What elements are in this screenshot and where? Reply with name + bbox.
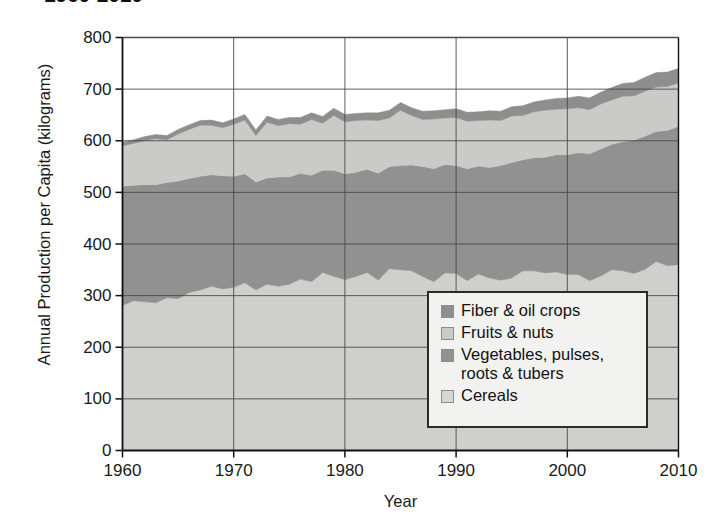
- legend-label: Cereals: [461, 386, 518, 405]
- y-tick-label: 500: [38, 184, 112, 201]
- legend-label: Fruits & nuts: [461, 323, 554, 342]
- legend-item: Fiber & oil crops: [441, 301, 646, 320]
- legend-swatch-vegetables-pulses-roots-tubers: [441, 349, 454, 362]
- legend-item: Cereals: [441, 386, 646, 405]
- x-tick-label: 1970: [189, 462, 279, 479]
- legend-item: Fruits & nuts: [441, 323, 646, 342]
- legend-swatch-fruits-nuts: [441, 327, 454, 340]
- x-tick-label: 1960: [78, 462, 168, 479]
- y-tick-label: 200: [38, 339, 112, 356]
- x-tick-label: 1980: [300, 462, 390, 479]
- legend-item: Vegetables, pulses, roots & tubers: [441, 345, 646, 383]
- y-tick-label: 600: [38, 132, 112, 149]
- legend-swatch-cereals: [441, 390, 454, 403]
- legend-swatch-fiber-oil-crops: [441, 305, 454, 318]
- x-tick-label: 1990: [411, 462, 501, 479]
- y-tick-label: 400: [38, 236, 112, 253]
- y-tick-label: 800: [38, 29, 112, 46]
- legend-label: Fiber & oil crops: [461, 301, 580, 320]
- x-tick-label: 2000: [522, 462, 612, 479]
- y-tick-label: 0: [38, 442, 112, 459]
- x-tick-label: 2010: [634, 462, 716, 479]
- y-tick-label: 100: [38, 390, 112, 407]
- y-tick-label: 300: [38, 287, 112, 304]
- chart-legend: Fiber & oil crops Fruits & nuts Vegetabl…: [427, 291, 648, 428]
- y-tick-label: 700: [38, 81, 112, 98]
- legend-label: Vegetables, pulses, roots & tubers: [461, 345, 604, 383]
- chart-figure: 1960-2010 Annual Production per Capita (…: [0, 0, 716, 525]
